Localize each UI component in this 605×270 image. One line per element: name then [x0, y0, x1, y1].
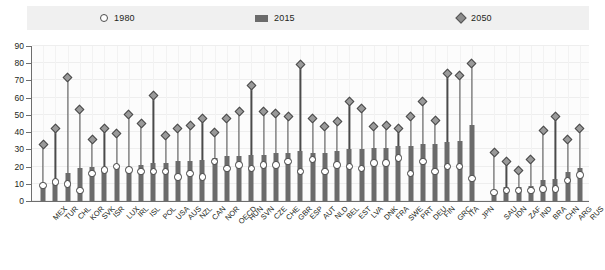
point-2050 — [467, 58, 477, 68]
bar-2015 — [469, 125, 474, 201]
point-1980 — [101, 166, 109, 174]
data-column[interactable] — [49, 46, 61, 201]
data-column[interactable] — [270, 46, 282, 201]
data-column[interactable] — [500, 46, 512, 201]
data-column[interactable] — [86, 46, 98, 201]
point-2050 — [538, 125, 548, 135]
data-column[interactable] — [405, 46, 417, 201]
point-1980 — [333, 161, 341, 169]
data-column[interactable] — [488, 46, 500, 201]
bar-2015 — [371, 148, 376, 201]
point-2050 — [63, 72, 73, 82]
point-2050 — [442, 69, 452, 79]
point-1980 — [125, 166, 133, 174]
bar-2015 — [420, 144, 425, 201]
data-column[interactable] — [562, 46, 574, 201]
data-column[interactable] — [513, 46, 525, 201]
data-column[interactable] — [184, 46, 196, 201]
point-1980 — [199, 173, 207, 181]
data-column[interactable] — [37, 46, 49, 201]
data-column[interactable] — [417, 46, 429, 201]
point-1980 — [468, 175, 476, 183]
data-column[interactable] — [221, 46, 233, 201]
data-column[interactable] — [307, 46, 319, 201]
y-tick-label: 40 — [0, 128, 24, 137]
data-column[interactable] — [245, 46, 257, 201]
data-column[interactable] — [74, 46, 86, 201]
data-column[interactable] — [294, 46, 306, 201]
data-column[interactable] — [525, 46, 537, 201]
y-tick-label: 90 — [0, 42, 24, 51]
point-2050 — [526, 155, 536, 165]
data-column[interactable] — [123, 46, 135, 201]
data-column[interactable] — [135, 46, 147, 201]
bar-2015 — [175, 161, 180, 201]
data-column[interactable] — [356, 46, 368, 201]
y-tick-label: 20 — [0, 163, 24, 172]
y-tick — [26, 201, 31, 202]
data-column[interactable] — [537, 46, 549, 201]
point-1980 — [88, 170, 96, 178]
point-1980 — [527, 187, 535, 195]
y-tick — [26, 149, 31, 150]
data-column[interactable] — [147, 46, 159, 201]
point-1980 — [564, 177, 572, 185]
point-1980 — [284, 158, 292, 166]
data-column[interactable] — [319, 46, 331, 201]
data-column[interactable] — [549, 46, 561, 201]
point-2050 — [295, 60, 305, 70]
point-1980 — [407, 170, 415, 178]
data-column[interactable] — [429, 46, 441, 201]
point-1980 — [370, 159, 378, 167]
point-2050 — [430, 115, 440, 125]
data-column[interactable] — [62, 46, 74, 201]
data-column[interactable] — [196, 46, 208, 201]
x-tick-label: LVA — [369, 205, 384, 220]
point-1980 — [64, 180, 72, 188]
data-column[interactable] — [209, 46, 221, 201]
y-tick-label: 70 — [0, 76, 24, 85]
data-column[interactable] — [466, 46, 478, 201]
legend-label-1980: 1980 — [114, 14, 135, 23]
y-tick — [26, 115, 31, 116]
y-tick-label: 30 — [0, 145, 24, 154]
y-tick — [26, 98, 31, 99]
data-column[interactable] — [233, 46, 245, 201]
point-2050 — [381, 120, 391, 130]
point-2050 — [489, 148, 499, 158]
bar-2015 — [384, 148, 389, 201]
data-column[interactable] — [392, 46, 404, 201]
y-tick — [26, 80, 31, 81]
point-2050 — [112, 129, 122, 139]
data-column[interactable] — [441, 46, 453, 201]
point-1980 — [137, 168, 145, 176]
y-tick-label: 0 — [0, 197, 24, 206]
point-2050 — [185, 120, 195, 130]
data-column[interactable] — [111, 46, 123, 201]
point-1980 — [382, 159, 390, 167]
point-2050 — [222, 113, 232, 123]
bar-2015 — [188, 161, 193, 201]
data-column[interactable] — [172, 46, 184, 201]
point-2050 — [514, 165, 524, 175]
point-1980 — [260, 161, 268, 169]
data-column[interactable] — [454, 46, 466, 201]
data-column[interactable] — [160, 46, 172, 201]
data-column[interactable] — [380, 46, 392, 201]
point-1980 — [297, 168, 305, 176]
x-tick-label: ISR — [112, 205, 126, 219]
point-2050 — [369, 122, 379, 132]
point-2050 — [148, 91, 158, 101]
data-column[interactable] — [343, 46, 355, 201]
data-column[interactable] — [98, 46, 110, 201]
data-column[interactable] — [282, 46, 294, 201]
data-column[interactable] — [574, 46, 586, 201]
point-2050 — [124, 110, 134, 120]
bar-2015 — [114, 165, 119, 201]
point-1980 — [490, 189, 498, 197]
data-column[interactable] — [331, 46, 343, 201]
data-column[interactable] — [368, 46, 380, 201]
data-column[interactable] — [258, 46, 270, 201]
circle-marker-icon — [100, 14, 108, 22]
point-1980 — [576, 171, 584, 179]
